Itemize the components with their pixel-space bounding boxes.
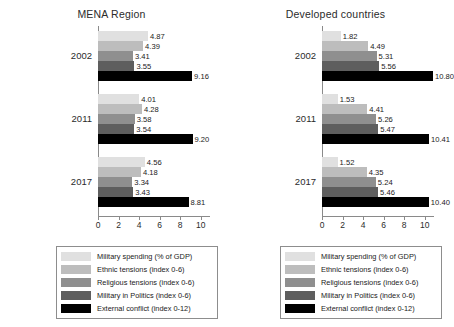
bar-row: 5.46 — [322, 187, 434, 197]
legend-label: Religious tensions (index 0-6) — [97, 278, 194, 287]
legend-label: External conflict (index 0-12) — [321, 304, 415, 313]
panel-title: Developed countries — [224, 8, 447, 20]
legend-swatch — [61, 304, 91, 313]
legend-swatch — [285, 252, 315, 261]
bar-row: 4.35 — [322, 167, 434, 177]
x-axis-tick-label: 6 — [381, 220, 386, 230]
legend-item: Religious tensions (index 0-6) — [61, 276, 213, 289]
bar-row: 1.82 — [322, 31, 434, 41]
bar — [98, 31, 148, 41]
x-axis-tick-label: 8 — [402, 220, 407, 230]
bar-row: 3.54 — [98, 124, 210, 134]
bar-value-label: 8.81 — [189, 198, 206, 207]
legend-label: Military spending (% of GDP) — [321, 252, 416, 261]
bar — [98, 187, 133, 197]
legend-label: Military spending (% of GDP) — [97, 252, 192, 261]
bar — [98, 41, 143, 51]
legend-swatch — [285, 265, 315, 274]
bar-value-label: 5.24 — [376, 178, 393, 187]
bar — [98, 94, 139, 104]
bar — [98, 197, 189, 207]
x-axis-tick-label: 0 — [320, 220, 325, 230]
bar-value-label: 3.34 — [132, 178, 149, 187]
legend-label: External conflict (index 0-12) — [97, 304, 191, 313]
bar-group: 20024.874.393.413.559.16 — [0, 31, 223, 81]
bar-value-label: 3.41 — [133, 52, 150, 61]
legend-label: Ethnic tensions (index 0-6) — [321, 265, 409, 274]
x-axis-tick-label: 0 — [96, 220, 101, 230]
bar-row: 10.41 — [322, 134, 434, 144]
bar-value-label: 3.43 — [133, 188, 150, 197]
bar — [322, 31, 341, 41]
category-label-2002: 2002 — [71, 50, 92, 61]
bar-value-label: 5.47 — [378, 125, 395, 134]
bar — [322, 94, 338, 104]
legend-swatch — [61, 278, 91, 287]
bar — [322, 61, 379, 71]
legend-swatch — [61, 291, 91, 300]
bar — [322, 41, 368, 51]
legend-swatch — [285, 278, 315, 287]
bar-value-label: 9.20 — [193, 135, 210, 144]
bar — [98, 71, 192, 81]
legend-item: External conflict (index 0-12) — [285, 302, 437, 315]
x-axis-tick-label: 8 — [178, 220, 183, 230]
chart-panel-developed: Developed countries024681020021.824.495.… — [224, 0, 447, 327]
chart-legend: Military spending (% of GDP)Ethnic tensi… — [280, 246, 442, 319]
bar-value-label: 4.01 — [139, 95, 156, 104]
bar-row: 4.41 — [322, 104, 434, 114]
bar-value-label: 5.46 — [378, 188, 395, 197]
bar — [322, 124, 378, 134]
bar-row: 3.43 — [98, 187, 210, 197]
legend-item: Ethnic tensions (index 0-6) — [285, 263, 437, 276]
bar-group: 20174.564.183.343.438.81 — [0, 157, 223, 207]
bar — [322, 197, 429, 207]
bar-row: 3.55 — [98, 61, 210, 71]
category-label-2017: 2017 — [295, 176, 316, 187]
bar-value-label: 5.26 — [376, 115, 393, 124]
bar — [98, 167, 141, 177]
bar-group: 20021.824.495.315.5610.80 — [224, 31, 447, 81]
x-axis-tick-label: 10 — [196, 220, 205, 230]
bar-row: 5.31 — [322, 51, 434, 61]
chart-panel-mena: MENA Region024681020024.874.393.413.559.… — [0, 0, 223, 327]
bar-value-label: 1.82 — [341, 32, 358, 41]
bar-value-label: 4.41 — [367, 105, 384, 114]
bar — [322, 177, 376, 187]
bar — [98, 104, 142, 114]
bar — [98, 157, 145, 167]
bar-row: 9.16 — [98, 71, 210, 81]
legend-swatch — [61, 265, 91, 274]
bar — [322, 187, 378, 197]
legend-label: Ethnic tensions (index 0-6) — [97, 265, 185, 274]
bar-row: 5.26 — [322, 114, 434, 124]
bar-value-label: 10.80 — [433, 72, 454, 81]
legend-swatch — [61, 252, 91, 261]
bar-value-label: 4.18 — [141, 168, 158, 177]
legend-item: Religious tensions (index 0-6) — [285, 276, 437, 289]
legend-item: Military spending (% of GDP) — [61, 250, 213, 263]
bar-row: 3.58 — [98, 114, 210, 124]
bar-value-label: 5.31 — [377, 52, 394, 61]
bar — [322, 167, 367, 177]
x-axis-line — [322, 216, 434, 217]
bar-group: 20111.534.415.265.4710.41 — [224, 94, 447, 144]
bar-value-label: 4.28 — [142, 105, 159, 114]
bar-group: 20171.524.355.245.4610.40 — [224, 157, 447, 207]
x-axis-tick-label: 2 — [116, 220, 121, 230]
bar — [322, 71, 433, 81]
bar-row: 10.40 — [322, 197, 434, 207]
bar — [98, 124, 134, 134]
bar-row: 4.18 — [98, 167, 210, 177]
bar-value-label: 9.16 — [192, 72, 209, 81]
x-axis-line — [98, 216, 210, 217]
bar — [322, 134, 429, 144]
bar-value-label: 4.56 — [145, 158, 162, 167]
bar-value-label: 3.58 — [135, 115, 152, 124]
x-axis-tick-label: 4 — [361, 220, 366, 230]
bar — [322, 114, 376, 124]
bar-value-label: 4.49 — [368, 42, 385, 51]
bar-row: 4.87 — [98, 31, 210, 41]
bar-value-label: 4.35 — [367, 168, 384, 177]
bar — [98, 61, 134, 71]
